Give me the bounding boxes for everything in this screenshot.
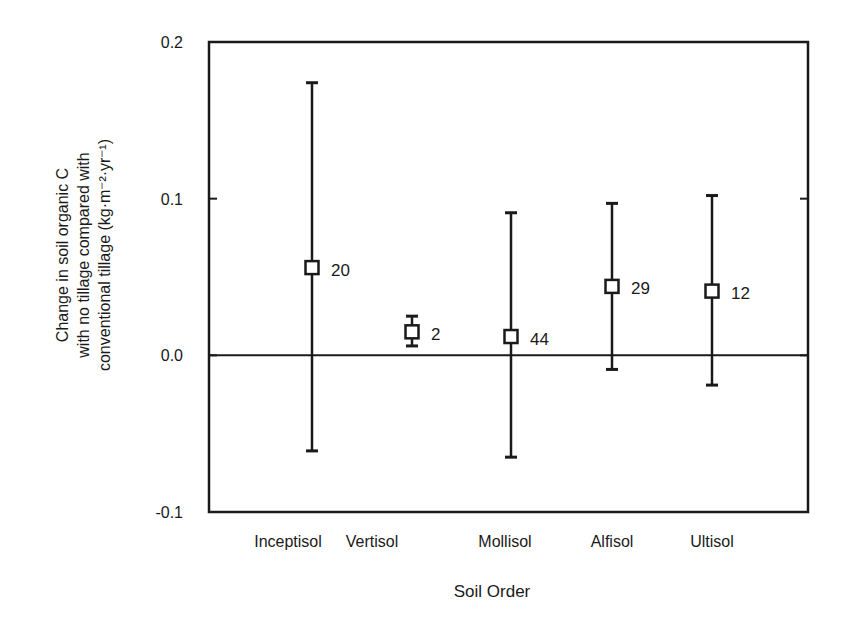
data-point-inceptisol: 20 xyxy=(306,83,350,451)
y-axis-title-line: conventional tillage (kg·m⁻²·yr⁻¹) xyxy=(96,139,113,371)
plot-frame xyxy=(209,42,808,512)
chart: 0.20.10.0-0.1 202442912 InceptisolVertis… xyxy=(0,0,852,625)
sample-count-label: 12 xyxy=(731,284,750,303)
y-axis-title: Change in soil organic Cwith no tillage … xyxy=(54,139,113,371)
data-point-alfisol: 29 xyxy=(606,203,650,369)
data-point-ultisol: 12 xyxy=(706,196,750,386)
plot-border xyxy=(209,42,808,512)
sample-count-label: 2 xyxy=(431,325,440,344)
x-axis-title: Soil Order xyxy=(454,582,531,601)
x-axis-category-labels: InceptisolVertisolMollisolAlfisolUltisol xyxy=(254,533,734,550)
data-point-mollisol: 44 xyxy=(505,213,549,457)
open-square-marker xyxy=(306,261,319,274)
y-tick-label: -0.1 xyxy=(155,504,183,521)
data-points: 202442912 xyxy=(306,83,750,457)
sample-count-label: 44 xyxy=(530,330,549,349)
open-square-marker xyxy=(406,325,419,338)
sample-count-label: 20 xyxy=(331,261,350,280)
data-point-vertisol: 2 xyxy=(406,316,441,346)
x-category-label: Alfisol xyxy=(591,533,634,550)
open-square-marker xyxy=(706,285,719,298)
x-category-label: Vertisol xyxy=(346,533,398,550)
x-category-label: Mollisol xyxy=(478,533,531,550)
y-tick-label: 0.2 xyxy=(161,34,183,51)
y-axis-title-line: with no tillage compared with xyxy=(75,152,92,358)
x-category-label: Ultisol xyxy=(690,533,734,550)
sample-count-label: 29 xyxy=(631,279,650,298)
open-square-marker xyxy=(505,330,518,343)
y-axis-title-line: Change in soil organic C xyxy=(54,168,71,342)
y-tick-label: 0.0 xyxy=(161,347,183,364)
x-category-label: Inceptisol xyxy=(254,533,322,550)
y-axis-ticks: 0.20.10.0-0.1 xyxy=(155,34,808,521)
y-tick-label: 0.1 xyxy=(161,191,183,208)
open-square-marker xyxy=(606,280,619,293)
